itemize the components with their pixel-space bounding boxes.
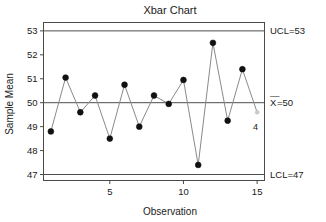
- data-point: [151, 93, 157, 99]
- y-tick-label: 52: [27, 49, 38, 60]
- data-point-markers: [48, 40, 259, 168]
- data-point: [210, 40, 216, 46]
- data-point: [77, 109, 83, 115]
- data-point: [181, 77, 187, 83]
- y-axis-ticks: 47484950515253: [27, 25, 44, 180]
- data-point: [240, 66, 246, 72]
- data-point: [166, 101, 172, 107]
- plot-area-frame: [44, 23, 265, 181]
- chart-title: Xbar Chart: [143, 4, 196, 16]
- sample-mean-line: [51, 43, 257, 165]
- data-point: [195, 162, 201, 168]
- data-point: [107, 136, 113, 142]
- y-tick-label: 49: [27, 121, 38, 132]
- y-tick-label: 53: [27, 25, 38, 36]
- chart-canvas: Xbar Chart Sample Mean Observation 47484…: [0, 0, 326, 222]
- data-point: [92, 93, 98, 99]
- ucl-label: UCL=53: [270, 25, 305, 36]
- x-axis-title: Observation: [143, 206, 197, 217]
- center-line-label-value: =50: [277, 97, 293, 108]
- data-point: [136, 124, 142, 130]
- data-point: [255, 110, 259, 114]
- violation-annotation: 4: [253, 122, 258, 132]
- y-axis-title: Sample Mean: [4, 73, 15, 135]
- x-tick-label: 5: [107, 186, 112, 197]
- y-tick-label: 51: [27, 73, 38, 84]
- y-tick-label: 47: [27, 169, 38, 180]
- lcl-label: LCL=47: [270, 169, 304, 180]
- x-tick-label: 10: [178, 186, 189, 197]
- x-tick-label: 15: [252, 186, 263, 197]
- data-point: [122, 82, 128, 88]
- series-line: [51, 43, 257, 165]
- data-point: [225, 118, 231, 124]
- data-point: [48, 129, 54, 135]
- center-line-label: X — =50: [270, 90, 293, 108]
- xbar-chart-figure: Xbar Chart Sample Mean Observation 47484…: [0, 0, 326, 222]
- y-tick-label: 50: [27, 97, 38, 108]
- data-point: [63, 75, 69, 81]
- x-axis-ticks: 51015: [107, 181, 262, 197]
- y-tick-label: 48: [27, 145, 38, 156]
